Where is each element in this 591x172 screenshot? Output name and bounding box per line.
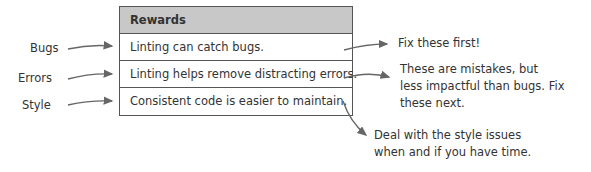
arrow-style-left bbox=[68, 101, 112, 105]
arrow-bugs-left bbox=[68, 45, 112, 49]
arrow-style-right bbox=[343, 101, 366, 135]
arrow-errors-right bbox=[344, 74, 389, 78]
arrow-errors-left bbox=[68, 74, 112, 79]
arrow-bugs-right bbox=[344, 44, 387, 50]
arrows-layer bbox=[0, 0, 591, 172]
